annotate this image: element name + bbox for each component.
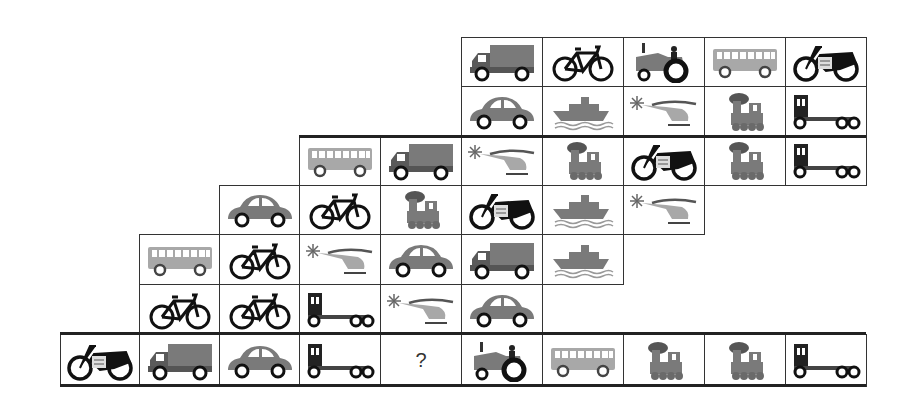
grid-cell xyxy=(542,86,624,137)
grid-cell xyxy=(461,334,543,387)
bicycle-icon xyxy=(224,239,296,281)
bicycle-icon xyxy=(304,189,376,231)
grid-cell xyxy=(542,234,624,285)
tow-truck-icon xyxy=(304,289,376,331)
grid-cell xyxy=(461,284,543,335)
tow-truck-icon xyxy=(790,91,862,133)
grid-cell xyxy=(380,185,462,235)
train-icon xyxy=(709,140,781,182)
bicycle-icon xyxy=(547,41,619,83)
bus-icon xyxy=(547,340,619,382)
grid-cell xyxy=(461,185,543,235)
truck-icon xyxy=(144,340,216,382)
grid-cell xyxy=(704,86,786,137)
answer-cell[interactable]: ? xyxy=(380,334,462,387)
grid-cell xyxy=(219,284,300,335)
grid-cell xyxy=(785,136,867,186)
grid-cell xyxy=(704,37,786,87)
grid-cell xyxy=(704,334,786,387)
car-icon xyxy=(466,289,538,331)
truck-icon xyxy=(466,239,538,281)
ship-icon xyxy=(547,189,619,231)
truck-icon xyxy=(466,41,538,83)
grid-cell xyxy=(542,37,624,87)
train-icon xyxy=(709,340,781,382)
grid-cell xyxy=(299,185,381,235)
grid-cell xyxy=(623,37,705,87)
grid-cell xyxy=(299,284,381,335)
grid-cell xyxy=(299,234,381,285)
helicopter-icon xyxy=(304,239,376,281)
puzzle-board: ? xyxy=(0,0,912,416)
grid-cell xyxy=(461,136,543,186)
tractor-icon xyxy=(628,41,700,83)
grid-cell xyxy=(785,86,867,137)
grid-cell xyxy=(219,234,300,285)
divider xyxy=(299,135,461,138)
grid-cell xyxy=(219,185,300,235)
grid-cell xyxy=(380,234,462,285)
helicopter-icon xyxy=(385,289,457,331)
motorcycle-icon xyxy=(628,140,700,182)
divider xyxy=(60,332,866,335)
motorcycle-icon xyxy=(64,340,136,382)
grid-cell xyxy=(139,234,220,285)
grid-cell xyxy=(623,334,705,387)
bicycle-icon xyxy=(144,289,216,331)
grid-cell xyxy=(461,37,543,87)
grid-cell xyxy=(785,37,867,87)
tow-truck-icon xyxy=(304,340,376,382)
divider xyxy=(60,384,866,387)
bus-icon xyxy=(144,239,216,281)
grid-cell xyxy=(623,185,705,235)
helicopter-icon xyxy=(628,189,700,231)
grid-cell xyxy=(380,136,462,186)
train-icon xyxy=(709,91,781,133)
helicopter-icon xyxy=(466,140,538,182)
grid-cell xyxy=(785,334,867,387)
grid-cell xyxy=(623,136,705,186)
train-icon xyxy=(385,189,457,231)
car-icon xyxy=(466,91,538,133)
grid-cell xyxy=(623,86,705,137)
grid-cell xyxy=(219,334,300,387)
tow-truck-icon xyxy=(790,140,862,182)
grid-cell xyxy=(542,185,624,235)
grid-cell xyxy=(299,136,381,186)
car-icon xyxy=(224,340,296,382)
tow-truck-icon xyxy=(790,340,862,382)
bus-icon xyxy=(304,140,376,182)
grid-cell xyxy=(704,136,786,186)
bicycle-icon xyxy=(224,289,296,331)
train-icon xyxy=(628,340,700,382)
motorcycle-icon xyxy=(466,189,538,231)
bus-icon xyxy=(709,41,781,83)
divider xyxy=(461,135,866,138)
car-icon xyxy=(385,239,457,281)
truck-icon xyxy=(385,140,457,182)
motorcycle-icon xyxy=(790,41,862,83)
tractor-icon xyxy=(466,340,538,382)
grid-cell xyxy=(380,284,462,335)
car-icon xyxy=(224,189,296,231)
grid-cell xyxy=(299,334,381,387)
question-mark: ? xyxy=(415,349,426,372)
grid-cell xyxy=(542,136,624,186)
train-icon xyxy=(547,140,619,182)
ship-icon xyxy=(547,239,619,281)
ship-icon xyxy=(547,91,619,133)
helicopter-icon xyxy=(628,91,700,133)
grid-cell xyxy=(139,334,220,387)
grid-cell xyxy=(542,334,624,387)
grid-cell xyxy=(461,86,543,137)
grid-cell xyxy=(60,334,140,387)
grid-cell xyxy=(139,284,220,335)
grid-cell xyxy=(461,234,543,285)
